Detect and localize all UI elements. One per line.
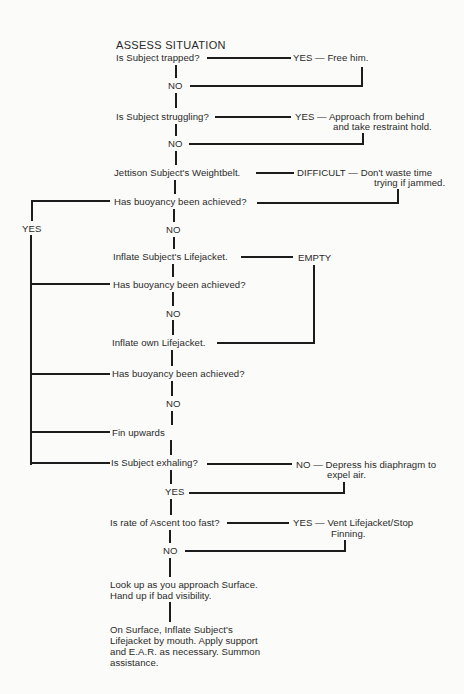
struggling-question: Is Subject struggling? bbox=[116, 111, 209, 122]
buoyancy-question-3: Has buoyancy been achieved? bbox=[112, 368, 245, 379]
connector bbox=[185, 550, 346, 552]
ascent-yes-action-line2: Finning. bbox=[331, 528, 366, 539]
no-label-6: NO bbox=[163, 545, 178, 556]
exhaling-no-action-line2: expel air. bbox=[327, 469, 366, 480]
connector bbox=[32, 200, 110, 202]
connector bbox=[169, 530, 171, 543]
connector bbox=[30, 373, 110, 375]
connector bbox=[217, 342, 315, 344]
connector bbox=[361, 67, 363, 87]
connector bbox=[173, 237, 175, 249]
no-label-2: NO bbox=[168, 138, 183, 149]
connector bbox=[189, 143, 364, 145]
connector bbox=[172, 292, 174, 306]
connector bbox=[30, 431, 110, 433]
no-label-1: NO bbox=[168, 80, 183, 91]
connector bbox=[171, 411, 173, 425]
connector bbox=[173, 209, 175, 222]
title-assess-situation: ASSESS SITUATION bbox=[116, 40, 226, 51]
ascent-yes-action-line1: YES — Vent Lifejacket/Stop bbox=[293, 517, 413, 528]
struggling-yes-action-line2: and take restraint hold. bbox=[333, 121, 432, 132]
empty-label: EMPTY bbox=[298, 252, 331, 263]
exhaling-question: Is Subject exhaling? bbox=[111, 457, 198, 468]
buoyancy-question-1: Has buoyancy been achieved? bbox=[114, 196, 247, 207]
yes-label-left: YES bbox=[22, 223, 41, 234]
connector bbox=[31, 200, 33, 221]
buoyancy-question-2: Has buoyancy been achieved? bbox=[113, 279, 246, 290]
inflate-subject-lifejacket: Inflate Subject's Lifejacket. bbox=[113, 251, 228, 262]
trapped-question: Is Subject trapped? bbox=[116, 52, 200, 63]
jettison-weightbelt: Jettison Subject's Weightbelt. bbox=[114, 167, 240, 178]
fin-upwards: Fin upwards bbox=[112, 427, 165, 438]
connector bbox=[256, 172, 294, 174]
connector bbox=[169, 602, 171, 622]
no-label-3: NO bbox=[166, 224, 181, 235]
on-surface-instruction: On Surface, Inflate Subject's Lifejacket… bbox=[110, 624, 275, 668]
connector bbox=[189, 492, 345, 494]
connector bbox=[227, 522, 289, 524]
connector bbox=[215, 116, 291, 118]
connector bbox=[175, 151, 177, 165]
difficult-action-line2: trying if jammed. bbox=[374, 177, 445, 188]
connector bbox=[171, 350, 173, 366]
no-label-4: NO bbox=[166, 308, 181, 319]
connector bbox=[175, 93, 177, 108]
connector bbox=[172, 264, 174, 277]
connector bbox=[257, 202, 399, 204]
connector bbox=[170, 440, 172, 455]
look-up-instruction: Look up as you approach Surface. Hand up… bbox=[110, 579, 280, 601]
connector bbox=[169, 558, 171, 577]
connector bbox=[30, 462, 110, 464]
connector bbox=[207, 57, 291, 59]
connector bbox=[397, 189, 399, 203]
connector bbox=[170, 470, 172, 484]
connector bbox=[313, 265, 315, 344]
connector bbox=[174, 180, 176, 194]
connector bbox=[30, 283, 110, 285]
ascent-question: Is rate of Ascent too fast? bbox=[110, 517, 220, 528]
connector bbox=[175, 124, 177, 136]
connector bbox=[171, 381, 173, 396]
trapped-yes-action: YES — Free him. bbox=[293, 52, 368, 63]
connector bbox=[172, 320, 174, 335]
connector bbox=[241, 256, 293, 258]
yes-label-exhaling: YES bbox=[165, 486, 184, 497]
connector bbox=[170, 499, 172, 515]
no-label-5: NO bbox=[166, 398, 181, 409]
inflate-own-lifejacket: Inflate own Lifejacket. bbox=[112, 337, 205, 348]
connector bbox=[207, 463, 292, 465]
exhaling-no-action-line1: NO — Depress his diaphragm to bbox=[296, 459, 436, 470]
connector bbox=[190, 85, 363, 87]
connector bbox=[175, 65, 177, 78]
